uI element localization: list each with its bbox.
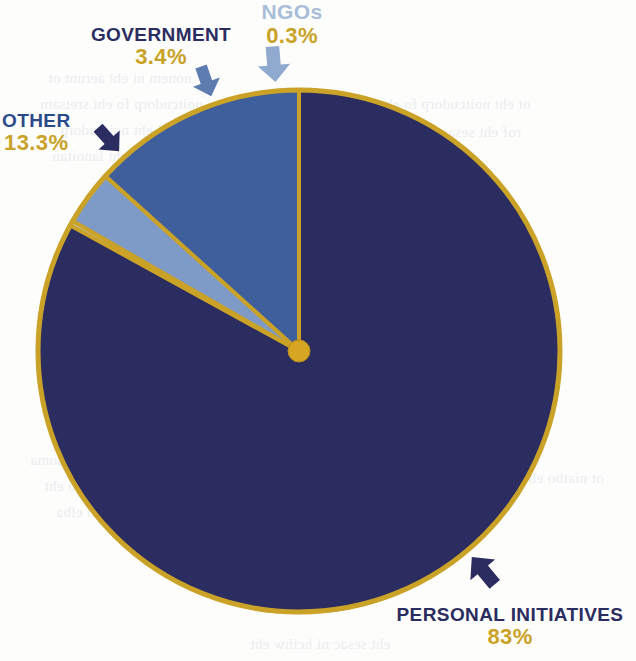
pointer-arrow-personal-initiatives-icon [470,557,500,589]
slice-label-personal-initiatives-percent: 83% [388,625,632,650]
pie-center-hub [288,340,310,362]
slice-label-ngos-percent: 0.3% [238,24,346,49]
pointer-arrow-ngos-icon [258,46,290,82]
slice-label-other-name: OTHER [2,110,122,131]
slice-label-government-percent: 3.4% [66,45,256,70]
pie-chart-page: nonem ni eht aerunt ot noitcudorp fo eht… [0,0,636,661]
slice-label-other-percent: 13.3% [2,131,122,156]
slice-label-personal-initiatives: PERSONAL INITIATIVES 83% [388,604,632,650]
slice-label-ngos-name: NGOs [238,0,346,24]
slice-label-government-name: GOVERNMENT [66,24,256,45]
pie-chart [0,0,636,661]
slice-label-personal-initiatives-name: PERSONAL INITIATIVES [388,604,632,625]
slice-label-other: OTHER 13.3% [2,110,122,156]
pie-chart-svg [0,0,636,661]
slice-label-government: GOVERNMENT 3.4% [66,24,256,70]
slice-label-ngos: NGOs 0.3% [238,0,346,48]
